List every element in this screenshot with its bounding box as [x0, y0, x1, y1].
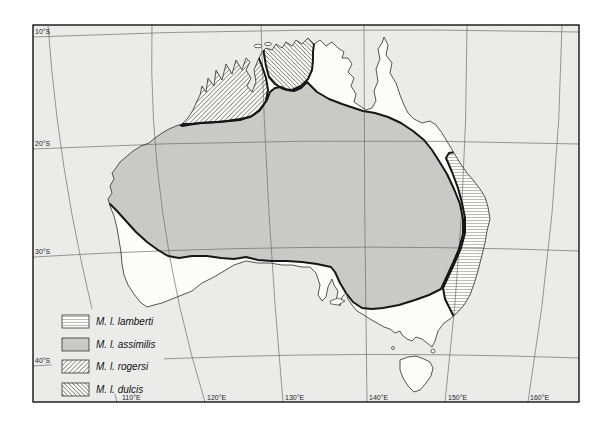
island-king [392, 347, 395, 350]
lon-label-130e: 130°E [285, 394, 304, 401]
legend-label-dulcis: M. l. dulcis [96, 384, 143, 395]
lat-label-10s: 10°S [35, 28, 51, 35]
legend-swatch-lamberti [62, 315, 89, 328]
legend: M. l. lamberti M. l. assimilis M. l. rog… [52, 309, 164, 396]
lat-label-40s: 40°S [35, 357, 51, 364]
island-melville [265, 42, 272, 45]
legend-item-assimilis: M. l. assimilis [62, 338, 155, 351]
lon-label-140e: 140°E [369, 394, 388, 401]
legend-item-rogersi: M. l. rogersi [62, 360, 149, 373]
lon-label-160e: 160°E [530, 394, 549, 401]
legend-swatch-dulcis [62, 383, 89, 396]
legend-label-assimilis: M. l. assimilis [96, 339, 155, 350]
island-flinders [431, 349, 435, 353]
lon-label-110e: 110°E [122, 394, 141, 401]
distribution-map-figure: 10°S 20°S 30°S 40°S 110°E 120°E 130°E 14… [0, 0, 614, 426]
legend-label-rogersi: M. l. rogersi [96, 361, 149, 372]
legend-item-lamberti: M. l. lamberti [62, 315, 154, 328]
legend-swatch-rogersi [62, 360, 89, 373]
lon-label-150e: 150°E [448, 394, 467, 401]
island-bathurst [254, 44, 262, 48]
legend-label-lamberti: M. l. lamberti [96, 316, 154, 327]
lat-label-20s: 20°S [35, 140, 51, 147]
legend-item-dulcis: M. l. dulcis [62, 383, 143, 396]
map-canvas: 10°S 20°S 30°S 40°S 110°E 120°E 130°E 14… [0, 0, 614, 426]
lon-label-120e: 120°E [207, 394, 226, 401]
legend-swatch-assimilis [62, 338, 89, 351]
lat-label-30s: 30°S [35, 248, 51, 255]
